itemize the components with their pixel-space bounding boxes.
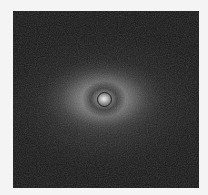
target-marker-circle (97, 92, 112, 107)
